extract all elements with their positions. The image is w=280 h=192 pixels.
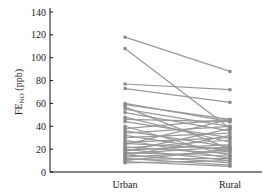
rural-marker <box>229 165 232 168</box>
rural-marker <box>229 159 232 162</box>
urban-marker <box>124 47 127 50</box>
rural-marker <box>229 148 232 151</box>
paired-line-chart: 020406080100120140 UrbanRural FENO (ppb) <box>0 0 280 192</box>
subject-line <box>125 37 230 71</box>
y-tick-label: 60 <box>36 98 46 109</box>
urban-marker <box>124 36 127 39</box>
y-tick-label: 100 <box>31 52 46 63</box>
urban-marker <box>124 83 127 86</box>
y-tick-label: 80 <box>36 75 46 86</box>
rural-marker <box>229 118 232 121</box>
y-tick-label: 40 <box>36 121 46 132</box>
rural-marker <box>229 139 232 142</box>
x-tick-label: Urban <box>113 179 138 190</box>
urban-marker <box>124 87 127 90</box>
x-tick-label: Rural <box>219 179 241 190</box>
y-tick-label: 140 <box>31 7 46 18</box>
subject-line <box>125 89 230 103</box>
y-axis: 020406080100120140 <box>31 7 53 178</box>
y-axis-label: FENO (ppb) <box>13 69 26 115</box>
rural-marker <box>229 70 232 73</box>
rural-marker <box>229 134 232 137</box>
x-axis: UrbanRural <box>50 172 262 190</box>
y-tick-label: 20 <box>36 144 46 155</box>
urban-marker <box>124 111 127 114</box>
rural-marker <box>229 88 232 91</box>
paired-lines <box>124 36 232 168</box>
y-tick-label: 120 <box>31 29 46 40</box>
urban-marker <box>124 120 127 123</box>
rural-marker <box>229 101 232 104</box>
rural-marker <box>229 127 232 130</box>
y-tick-label: 0 <box>41 167 46 178</box>
urban-marker <box>124 108 127 111</box>
urban-marker <box>124 161 127 164</box>
